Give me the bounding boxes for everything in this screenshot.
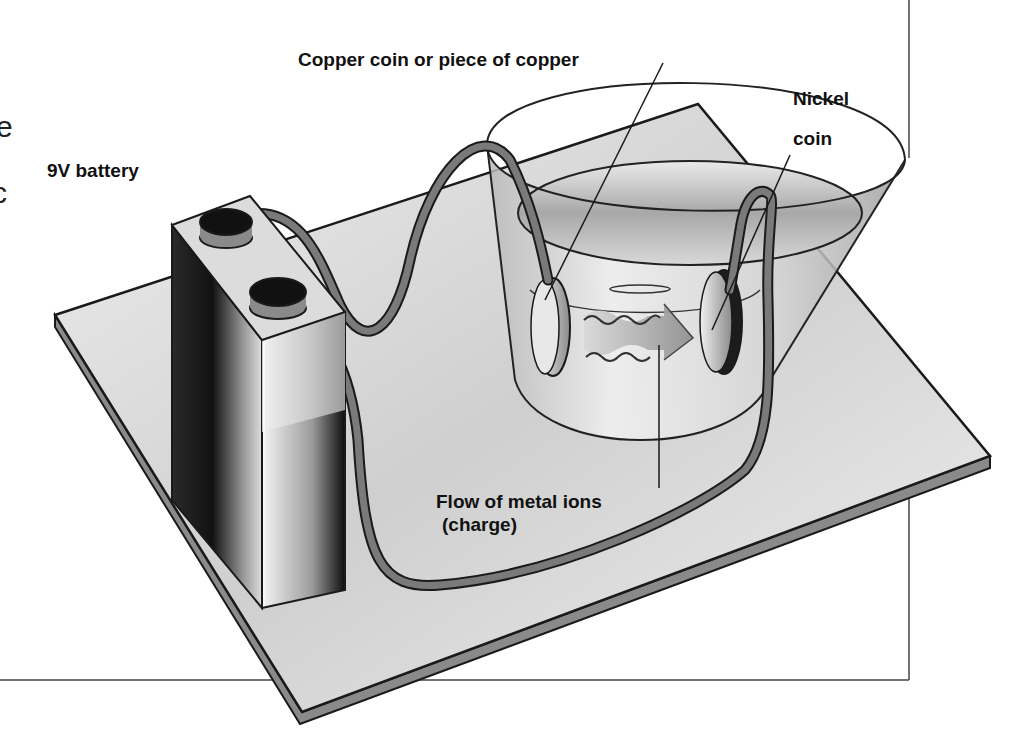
battery-terminal-negative: [200, 209, 252, 248]
copper-electrode: [531, 278, 570, 376]
diagram-illustration: [0, 0, 1010, 729]
electroplating-diagram: e c 9V battery Copper coin or piece of c…: [0, 0, 1010, 729]
battery-terminal-positive: [250, 278, 306, 319]
clipped-text-e: e: [0, 112, 13, 142]
label-nickel-coin-line1: Nickel: [793, 89, 849, 108]
label-nickel-coin-line2: coin: [793, 129, 832, 148]
label-copper-coin: Copper coin or piece of copper: [298, 50, 579, 69]
label-flow-of-ions-line1: Flow of metal ions: [436, 492, 602, 511]
label-9v-battery: 9V battery: [47, 161, 139, 180]
clipped-text-c: c: [0, 178, 7, 208]
label-flow-of-ions-line2: (charge): [442, 515, 517, 534]
